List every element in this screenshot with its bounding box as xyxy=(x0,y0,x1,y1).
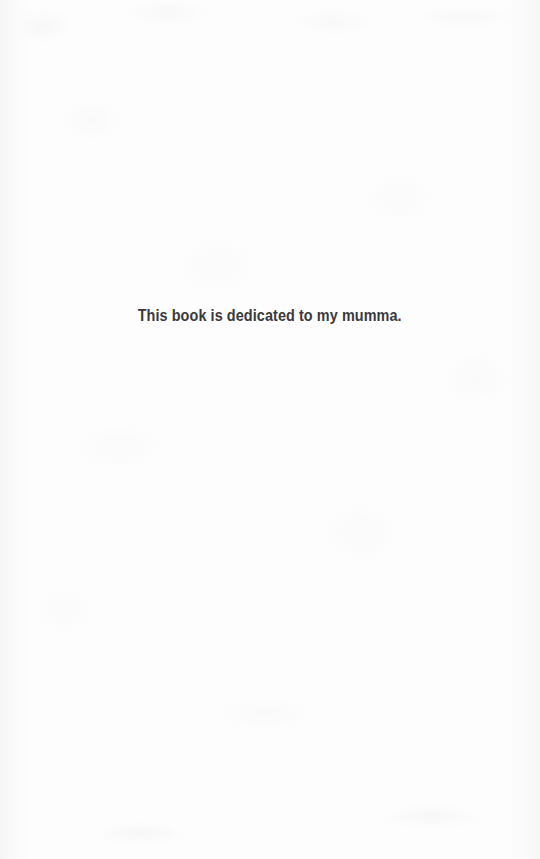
dedication-block: This book is dedicated to my mumma. xyxy=(0,306,540,326)
dedication-page: This book is dedicated to my mumma. xyxy=(0,0,540,859)
dedication-text: This book is dedicated to my mumma. xyxy=(138,306,402,326)
